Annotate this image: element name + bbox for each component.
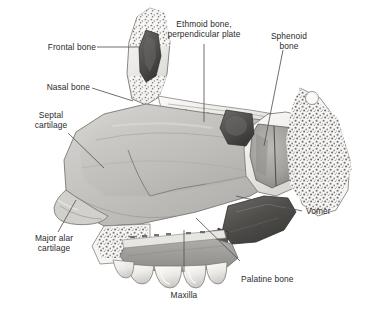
- label-septal-cartilage-line1: Septal: [39, 110, 63, 120]
- label-sphenoid-bone-line2: bone: [279, 41, 298, 51]
- label-major-alar-cartilage-line1: Major alar: [35, 233, 73, 243]
- label-ethmoid-bone-line1: Ethmoid bone,: [176, 19, 231, 29]
- label-major-alar-cartilage: Major alarcartilage: [12, 233, 96, 253]
- label-major-alar-cartilage-line2: cartilage: [38, 243, 71, 253]
- label-sphenoid-bone: Sphenoidbone: [258, 31, 320, 51]
- label-vomer: Vomer: [306, 206, 368, 216]
- label-sphenoid-bone-line1: Sphenoid: [271, 31, 307, 41]
- figure-canvas: Frontal bone Nasal bone Septalcartilage …: [0, 0, 374, 313]
- label-ethmoid-bone: Ethmoid bone,perpendicular plate: [146, 19, 262, 39]
- label-ethmoid-bone-line2: perpendicular plate: [167, 29, 240, 39]
- label-maxilla: Maxilla: [160, 290, 208, 300]
- label-septal-cartilage-line2: cartilage: [35, 120, 68, 130]
- label-palatine-bone: Palatine bone: [241, 274, 331, 284]
- label-septal-cartilage: Septalcartilage: [16, 110, 86, 130]
- label-frontal-bone: Frontal bone: [12, 42, 96, 52]
- label-nasal-bone: Nasal bone: [12, 82, 90, 92]
